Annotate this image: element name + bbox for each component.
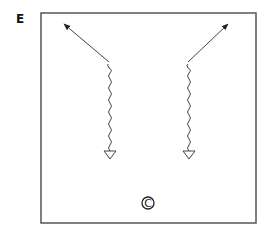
left-dribble-path (108, 64, 112, 151)
coach-icon: C (142, 197, 154, 210)
right-player-triangle-icon (183, 151, 195, 159)
left-run-arrow (64, 24, 109, 62)
left-player-triangle-icon (104, 151, 116, 159)
coach-label: C (144, 197, 152, 210)
field-border (41, 13, 256, 223)
drill-diagram: C (0, 0, 271, 241)
right-dribble-path (187, 64, 191, 151)
right-run-arrow (188, 24, 228, 62)
